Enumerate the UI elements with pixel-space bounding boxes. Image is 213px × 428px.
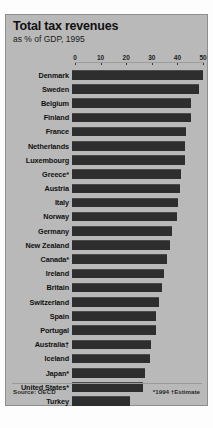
axis-rule — [75, 62, 204, 63]
bar-category-label: Portugal — [6, 326, 72, 335]
bar — [72, 254, 167, 264]
bar-row: Portugal — [6, 323, 209, 337]
bar-row: France — [6, 125, 209, 139]
bar-track — [72, 338, 209, 352]
chart-panel: Total tax revenues as % of GDP, 1995 010… — [5, 14, 208, 406]
bar-row: Greece* — [6, 167, 209, 181]
bar-row: New Zealand — [6, 238, 209, 252]
bar-category-label: Canada* — [6, 255, 72, 264]
bar-row: Luxembourg — [6, 153, 209, 167]
bar-track — [72, 153, 209, 167]
bar-track — [72, 139, 209, 153]
bar-row: Switzerland — [6, 295, 209, 309]
bar — [72, 311, 156, 321]
bar-row: Sweden — [6, 82, 209, 96]
x-axis-tick-mark — [203, 63, 204, 65]
bar-track — [72, 96, 209, 110]
bar-category-label: Luxembourg — [6, 156, 72, 165]
footnote-label: *1994 †Estimate — [153, 388, 200, 395]
bar-category-label: Belgium — [6, 99, 72, 108]
bar-category-label: Switzerland — [6, 298, 72, 307]
bar-track — [72, 352, 209, 366]
x-axis-tick-label: 40 — [174, 54, 181, 61]
bar-track — [72, 167, 209, 181]
bar-row: Japan* — [6, 366, 209, 380]
bar-category-label: Netherlands — [6, 142, 72, 151]
bar-track — [72, 252, 209, 266]
bar-row: Austria — [6, 182, 209, 196]
bar-row: Finland — [6, 111, 209, 125]
bar-track — [72, 323, 209, 337]
bar — [72, 70, 203, 80]
x-axis-tick-label: 10 — [97, 54, 104, 61]
chart-footer: Source: OECD *1994 †Estimate — [6, 383, 207, 405]
x-axis-tick-mark — [177, 63, 178, 65]
bar-category-label: Finland — [6, 113, 72, 122]
bar — [72, 212, 177, 222]
chart-subtitle: as % of GDP, 1995 — [13, 34, 207, 45]
bar-row: Denmark — [6, 68, 209, 82]
chart-plot-area: 01020304050 DenmarkSwedenBelgiumFinlandF… — [6, 54, 209, 384]
bar — [72, 127, 186, 137]
bar-track — [72, 182, 209, 196]
bar — [72, 340, 151, 350]
bar-category-label: Austria — [6, 184, 72, 193]
bar-category-label: Spain — [6, 312, 72, 321]
bar — [72, 240, 170, 250]
bar-track — [72, 82, 209, 96]
x-axis-tick-mark — [101, 63, 102, 65]
bar-track — [72, 111, 209, 125]
bar — [72, 354, 150, 364]
bar-row: Norway — [6, 210, 209, 224]
bar-category-label: Denmark — [6, 71, 72, 80]
bar — [72, 141, 185, 151]
bar-track — [72, 210, 209, 224]
bar-category-label: Japan* — [6, 369, 72, 378]
bar-category-label: Australia† — [6, 340, 72, 349]
footer-divider — [12, 383, 202, 384]
bar-row: Ireland — [6, 267, 209, 281]
bar — [72, 368, 145, 378]
bar-row: Canada* — [6, 252, 209, 266]
bar-row: Netherlands — [6, 139, 209, 153]
bar — [72, 283, 162, 293]
bar-track — [72, 295, 209, 309]
bar-category-label: Britain — [6, 283, 72, 292]
bar-track — [72, 196, 209, 210]
bar — [72, 184, 180, 194]
bar — [72, 155, 185, 165]
bar — [72, 198, 178, 208]
bar-track — [72, 267, 209, 281]
bar-track — [72, 125, 209, 139]
bar-row: Australia† — [6, 338, 209, 352]
bar — [72, 169, 181, 179]
bar-track — [72, 366, 209, 380]
bar-track — [72, 238, 209, 252]
bar-category-label: Italy — [6, 198, 72, 207]
bar-category-label: Sweden — [6, 85, 72, 94]
screenshot-page: Total tax revenues as % of GDP, 1995 010… — [0, 0, 213, 428]
chart-header: Total tax revenues as % of GDP, 1995 — [6, 15, 207, 45]
bar-category-label: Greece* — [6, 170, 72, 179]
bar-rows: DenmarkSwedenBelgiumFinlandFranceNetherl… — [6, 68, 209, 409]
x-axis-tick-mark — [75, 63, 76, 65]
bar — [72, 226, 172, 236]
x-axis-tick-mark — [126, 63, 127, 65]
bar — [72, 113, 191, 123]
bar — [72, 297, 159, 307]
bar-row: Britain — [6, 281, 209, 295]
bar-category-label: France — [6, 127, 72, 136]
bar-category-label: Norway — [6, 212, 72, 221]
bar-row: Belgium — [6, 96, 209, 110]
bar-category-label: Germany — [6, 227, 72, 236]
source-label: Source: OECD — [13, 388, 56, 395]
x-axis: 01020304050 — [6, 54, 209, 68]
bar-row: Iceland — [6, 352, 209, 366]
bar — [72, 325, 156, 335]
x-axis-tick-label: 50 — [199, 54, 206, 61]
bar-track — [72, 281, 209, 295]
bar-category-label: Iceland — [6, 354, 72, 363]
bar — [72, 84, 199, 94]
bar-row: Germany — [6, 224, 209, 238]
bar-track — [72, 224, 209, 238]
